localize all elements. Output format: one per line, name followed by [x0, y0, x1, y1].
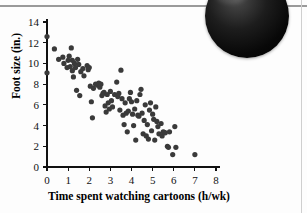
data-point — [150, 112, 155, 117]
data-point — [134, 98, 139, 103]
data-point — [130, 112, 135, 117]
data-point — [52, 46, 57, 51]
data-point — [167, 129, 172, 134]
figure-page: 01234567802468101214 Foot size (in.) Tim… — [0, 0, 307, 213]
data-point — [108, 89, 113, 94]
data-point — [125, 129, 130, 134]
data-point — [61, 61, 66, 66]
x-tick-label: 0 — [37, 175, 57, 186]
data-point — [87, 65, 92, 70]
data-point — [44, 34, 49, 39]
x-axis-title: Time spent watching cartoons (h/wk) — [14, 190, 264, 202]
data-point — [116, 91, 121, 96]
data-point — [148, 100, 153, 105]
data-point — [114, 79, 119, 84]
data-point — [89, 99, 94, 104]
x-tick-label: 8 — [206, 175, 226, 186]
data-point — [118, 68, 123, 73]
y-axis-title: Foot size (in.) — [10, 6, 22, 126]
data-point — [192, 152, 197, 157]
data-point — [166, 145, 171, 150]
data-point — [147, 107, 152, 112]
data-point — [77, 93, 82, 98]
y-tick-label: 2 — [13, 141, 39, 152]
data-point — [158, 121, 163, 126]
data-point — [67, 54, 72, 59]
data-point — [90, 115, 95, 120]
y-tick-label: 0 — [13, 162, 39, 173]
scatter-chart: 01234567802468101214 Foot size (in.) Tim… — [0, 0, 307, 213]
data-point — [122, 122, 127, 127]
data-point — [71, 74, 76, 79]
x-tick-label: 5 — [143, 175, 163, 186]
x-tick-label: 1 — [58, 175, 78, 186]
data-point — [76, 62, 81, 67]
data-point — [119, 96, 124, 101]
data-point — [60, 55, 65, 60]
x-tick-label: 3 — [100, 175, 120, 186]
data-point — [138, 87, 143, 92]
data-point — [132, 106, 137, 111]
data-point — [110, 104, 115, 109]
data-point — [81, 73, 86, 78]
data-point — [69, 45, 74, 50]
data-point — [139, 111, 144, 116]
data-point — [131, 123, 136, 128]
data-point — [129, 99, 134, 104]
data-point — [153, 104, 158, 109]
data-point — [128, 90, 133, 95]
data-point — [172, 124, 177, 129]
data-point — [145, 122, 150, 127]
data-point — [149, 128, 154, 133]
data-point — [109, 98, 114, 103]
x-tick-label: 7 — [185, 175, 205, 186]
data-point — [142, 118, 147, 123]
data-point — [173, 145, 178, 150]
x-tick-label: 2 — [79, 175, 99, 186]
data-point — [137, 92, 142, 97]
data-point — [126, 108, 131, 113]
data-point — [80, 66, 85, 71]
data-point — [117, 107, 122, 112]
data-point — [75, 57, 80, 62]
data-point — [170, 152, 175, 157]
x-tick-label: 6 — [164, 175, 184, 186]
x-tick-label: 4 — [122, 175, 142, 186]
data-point — [146, 136, 151, 141]
data-point — [123, 100, 128, 105]
data-point — [74, 88, 79, 93]
data-point — [152, 137, 157, 142]
data-point — [143, 102, 148, 107]
data-point — [133, 137, 138, 142]
data-point — [44, 70, 49, 75]
data-point — [98, 82, 103, 87]
